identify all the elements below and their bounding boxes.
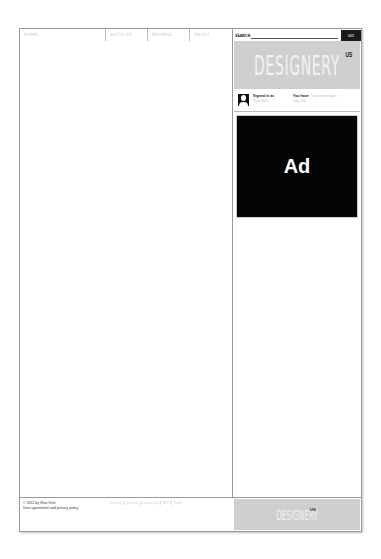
nav-item-home[interactable]: HOME [20,29,106,41]
main-nav: HOME ARTICLES BROWSE ABOUT [20,29,232,41]
footer: © 2011 by Khoi Vinh User agreement and p… [20,497,361,531]
separator: | [124,501,125,505]
footer-links: Site Map | Archives | Contact Us | RSS |… [110,501,182,505]
search-go-button[interactable]: GO [341,30,361,41]
sidebar: SEARCH GO DESIGNERY US Signed in as Khoi… [233,29,361,497]
messages-prefix: You have [293,94,309,98]
logo-sup: US [345,51,352,58]
messages-link[interactable]: 7 new messages [310,94,337,98]
search-label: SEARCH [235,33,246,38]
username-link[interactable]: Khoi Vinh [253,99,293,104]
separator: | [171,501,172,505]
footer-link-archives[interactable]: Archives [127,501,139,505]
policy-link[interactable]: User agreement and privacy policy [23,506,230,511]
page-frame: HOME ARTICLES BROWSE ABOUT SEARCH GO DES… [19,28,362,532]
nav-item-about[interactable]: ABOUT [190,29,232,41]
logo-text: DESIGNERY [254,50,340,81]
footer-logo[interactable]: DESIGNERY US [234,499,360,530]
user-panel: Signed in as Khoi Vinh You have 7 new me… [234,89,360,112]
main-column: HOME ARTICLES BROWSE ABOUT [20,29,233,497]
footer-link-twitter[interactable]: Twitter [174,501,183,505]
separator: | [140,501,141,505]
site-logo[interactable]: DESIGNERY US [234,41,360,89]
search-bar: SEARCH GO [233,29,361,41]
ad-label: Ad [284,155,311,178]
ad-banner[interactable]: Ad [236,115,358,218]
nav-item-browse[interactable]: BROWSE [148,29,190,41]
avatar-icon [238,94,249,106]
footer-link-contact[interactable]: Contact Us [143,501,158,505]
separator: | [160,501,161,505]
footer-main: © 2011 by Khoi Vinh User agreement and p… [20,498,233,531]
logout-link[interactable]: Log Out [293,99,337,104]
signed-in-block: Signed in as Khoi Vinh [253,94,293,104]
footer-link-rss[interactable]: RSS [163,501,169,505]
nav-item-articles[interactable]: ARTICLES [106,29,148,41]
footer-link-sitemap[interactable]: Site Map [110,501,122,505]
messages-block: You have 7 new messages Log Out [293,94,337,104]
footer-logo-sup: US [310,507,316,512]
search-input[interactable] [251,32,338,39]
